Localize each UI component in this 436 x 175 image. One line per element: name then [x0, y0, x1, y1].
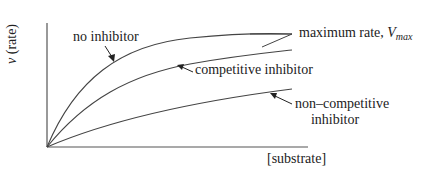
noncomp-line1: non–competitive	[295, 97, 375, 111]
arrow-non-competitive-inhibitor	[270, 93, 292, 104]
vmax-symbol: V	[387, 25, 396, 40]
y-axis-text: (rate)	[4, 24, 19, 58]
label-competitive-inhibitor: competitive inhibitor	[195, 63, 313, 77]
curve-no-inhibitor	[47, 34, 292, 147]
curve-non-competitive-inhibitor	[47, 89, 292, 147]
label-non-competitive-inhibitor: non–competitive inhibitor	[295, 97, 375, 127]
vmax-prefix: maximum rate,	[299, 25, 387, 40]
arrow-no-inhibitor	[105, 46, 115, 62]
label-vmax: maximum rate, Vmax	[299, 26, 413, 42]
vmax-leader-bottom	[262, 34, 292, 47]
noncomp-line2: inhibitor	[295, 113, 375, 127]
y-axis-label: v (rate)	[4, 24, 20, 64]
label-no-inhibitor: no inhibitor	[73, 30, 139, 44]
vmax-subscript: max	[396, 31, 413, 42]
x-axis-label: [substrate]	[267, 152, 326, 166]
y-axis-symbol: v	[4, 58, 19, 64]
